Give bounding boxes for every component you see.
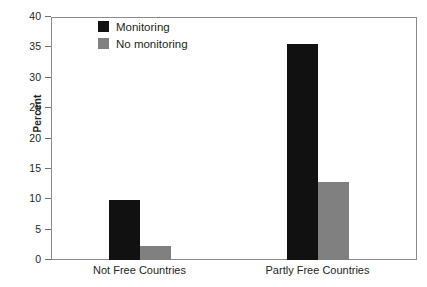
y-axis-tick-label: 35 [0,39,41,54]
y-axis-tick-label: 0 [0,252,41,267]
bars-layer [51,17,417,260]
y-axis-tick-label: 5 [0,222,41,237]
y-axis-tick-label: 25 [0,100,41,115]
bar-monitoring [287,44,318,260]
bar-no-monitoring [140,246,171,260]
y-axis-tick-label: 20 [0,131,41,146]
legend-item: Monitoring [98,18,188,35]
bar-no-monitoring [318,182,349,260]
legend-item-label: Monitoring [116,21,170,33]
y-axis-tick-label: 15 [0,161,41,176]
legend-item: No monitoring [98,35,188,52]
bar-monitoring [109,200,140,260]
y-axis-tick-label: 30 [0,70,41,85]
x-axis-tick-label: Not Free Countries [50,264,230,276]
x-axis-tick-label: Partly Free Countries [228,264,408,276]
y-axis-tick-label: 40 [0,9,41,24]
legend-swatch-gray [98,38,109,49]
legend-swatch-black [98,21,109,32]
legend-item-label: No monitoring [116,38,188,50]
legend: MonitoringNo monitoring [98,18,188,52]
y-axis-tick-label: 10 [0,191,41,206]
bar-chart: Percent 0510152025303540 Not Free Countr… [0,0,427,287]
